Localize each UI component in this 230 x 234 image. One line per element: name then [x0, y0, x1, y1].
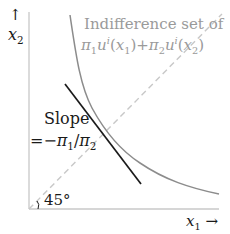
angle-arc	[37, 201, 39, 209]
y-axis-label: x2	[8, 27, 24, 43]
equals-sign: =	[30, 131, 43, 150]
curve-label-formula: π1ui(x1)+π2ui(x2)	[81, 38, 204, 53]
slope-pi2: π	[79, 131, 90, 150]
pi1: π	[81, 36, 91, 54]
y-axis-sub: 2	[17, 34, 24, 46]
u1: u	[97, 36, 107, 54]
slope-label-title: Slope	[44, 111, 89, 127]
paren-close-2: )	[198, 36, 204, 54]
slope-pi1: π	[57, 131, 68, 150]
plus-sign: +	[136, 36, 149, 54]
slope-pi2-sub: 2	[90, 140, 97, 152]
x-axis-sub: 1	[194, 221, 200, 232]
x-axis-arrow-icon: →	[205, 212, 218, 230]
pi2: π	[149, 36, 159, 54]
slope-label-formula: =−π1/π2	[30, 133, 96, 149]
x1-var: x	[116, 36, 124, 54]
y-axis-arrow-icon: ↑	[9, 8, 22, 23]
y-axis-var: x	[8, 25, 17, 44]
angle-label: 45°	[44, 193, 71, 208]
minus-sign: −	[43, 131, 56, 150]
x2-var: x	[184, 36, 192, 54]
u2: u	[165, 36, 175, 54]
x-axis-label: x1 →	[186, 214, 218, 229]
curve-label-title: Indifference set of	[84, 17, 223, 32]
slope-pi1-sub: 1	[67, 140, 74, 152]
